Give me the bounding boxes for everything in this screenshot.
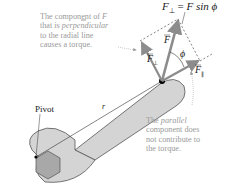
parallel-note: The parallel component does not contribu… <box>146 116 200 153</box>
equation-lhs-subscript: ⊥ <box>169 7 175 15</box>
force-label: F <box>164 34 170 45</box>
equation-lhs: F <box>162 0 169 12</box>
force-perp-label: F⊥ <box>147 53 158 66</box>
parallel-callout-line <box>191 72 193 105</box>
pivot-label: Pivot <box>35 104 54 114</box>
equation-rhs: F sin ϕ <box>186 0 217 12</box>
equation-equals: = <box>177 0 183 12</box>
perpendicular-note: The component of F that is perpendicular… <box>40 12 108 49</box>
radius-label: r <box>102 102 105 111</box>
angle-label: ϕ <box>180 48 185 59</box>
force-arrow <box>162 21 178 81</box>
wrench-diagram <box>0 0 226 192</box>
perpendicular-force-equation: F⊥ = F sin ϕ <box>162 0 217 15</box>
force-parallel-label: F∥ <box>195 64 204 77</box>
perpendicular-callout-line <box>118 47 136 50</box>
